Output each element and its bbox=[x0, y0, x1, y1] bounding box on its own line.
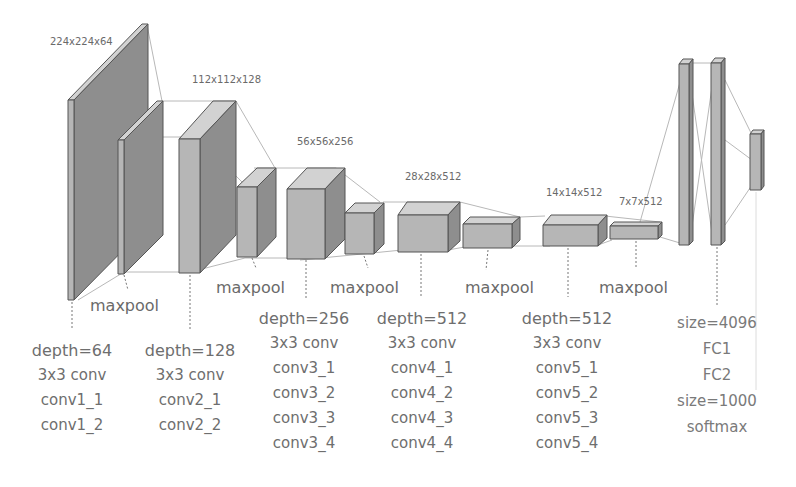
block-5-kernel: 3x3 conv bbox=[515, 331, 619, 356]
fc2-label: FC2 bbox=[662, 362, 772, 388]
fc1-layer bbox=[679, 59, 693, 245]
block-1-layer-1: conv1_1 bbox=[24, 388, 120, 413]
pool4-layer bbox=[463, 217, 520, 248]
block-5-description: depth=512 3x3 conv conv5_1 conv5_2 conv5… bbox=[515, 306, 619, 456]
block-4-layer-1: conv4_1 bbox=[370, 356, 474, 381]
dim-label-conv4: 28x28x512 bbox=[405, 171, 461, 182]
block-3-depth: depth=256 bbox=[252, 306, 356, 331]
block-1-layer-2: conv1_2 bbox=[24, 413, 120, 438]
block-4-kernel: 3x3 conv bbox=[370, 331, 474, 356]
conv5-layer bbox=[543, 215, 607, 246]
block-4-layer-2: conv4_2 bbox=[370, 381, 474, 406]
softmax-layer bbox=[750, 130, 764, 190]
fc-description: size=4096 FC1 FC2 size=1000 softmax bbox=[662, 310, 772, 440]
maxpool-label-5: maxpool bbox=[599, 278, 668, 297]
vgg-diagram: .f { fill:#b6b6b6; stroke:#555; stroke-w… bbox=[0, 0, 796, 487]
block-5-layer-2: conv5_2 bbox=[515, 381, 619, 406]
pool2-layer bbox=[237, 168, 276, 257]
block-3-layer-2: conv3_2 bbox=[252, 381, 356, 406]
block-3-layer-1: conv3_1 bbox=[252, 356, 356, 381]
dim-label-pool5: 7x7x512 bbox=[619, 196, 663, 207]
block-2-kernel: 3x3 conv bbox=[138, 363, 242, 388]
block-4-layer-4: conv4_4 bbox=[370, 431, 474, 456]
block-4-layer-3: conv4_3 bbox=[370, 406, 474, 431]
block-2-layer-1: conv2_1 bbox=[138, 388, 242, 413]
conv3-layer bbox=[287, 168, 345, 259]
fc-size-1000: size=1000 bbox=[662, 388, 772, 414]
block-1-kernel: 3x3 conv bbox=[24, 363, 120, 388]
dim-label-conv5: 14x14x512 bbox=[546, 187, 602, 198]
block-1-depth: depth=64 bbox=[24, 338, 120, 363]
dim-label-conv2: 112x112x128 bbox=[192, 74, 261, 85]
conv2-layer bbox=[179, 101, 236, 273]
block-3-kernel: 3x3 conv bbox=[252, 331, 356, 356]
block-2-description: depth=128 3x3 conv conv2_1 conv2_2 bbox=[138, 338, 242, 438]
block-3-layer-4: conv3_4 bbox=[252, 431, 356, 456]
dim-label-conv1: 224x224x64 bbox=[50, 36, 113, 47]
maxpool-label-3: maxpool bbox=[330, 278, 399, 297]
block-1-description: depth=64 3x3 conv conv1_1 conv1_2 bbox=[24, 338, 120, 438]
block-4-depth: depth=512 bbox=[370, 306, 474, 331]
maxpool-label-1: maxpool bbox=[90, 296, 159, 315]
block-2-depth: depth=128 bbox=[138, 338, 242, 363]
block-5-depth: depth=512 bbox=[515, 306, 619, 331]
maxpool-label-4: maxpool bbox=[465, 278, 534, 297]
block-3-description: depth=256 3x3 conv conv3_1 conv3_2 conv3… bbox=[252, 306, 356, 456]
pool5-layer bbox=[610, 222, 662, 239]
block-5-layer-1: conv5_1 bbox=[515, 356, 619, 381]
block-3-layer-3: conv3_3 bbox=[252, 406, 356, 431]
conv4-layer bbox=[398, 202, 460, 252]
pool3-layer bbox=[345, 203, 384, 254]
maxpool-label-2: maxpool bbox=[216, 278, 285, 297]
block-4-description: depth=512 3x3 conv conv4_1 conv4_2 conv4… bbox=[370, 306, 474, 456]
block-5-layer-3: conv5_3 bbox=[515, 406, 619, 431]
connector-lines bbox=[72, 25, 752, 300]
fc2-layer bbox=[711, 58, 725, 245]
block-2-layer-2: conv2_2 bbox=[138, 413, 242, 438]
block-5-layer-4: conv5_4 bbox=[515, 431, 619, 456]
fc-size-4096: size=4096 bbox=[662, 310, 772, 336]
softmax-label: softmax bbox=[662, 414, 772, 440]
fc1-label: FC1 bbox=[662, 336, 772, 362]
dim-label-conv3: 56x56x256 bbox=[297, 136, 353, 147]
